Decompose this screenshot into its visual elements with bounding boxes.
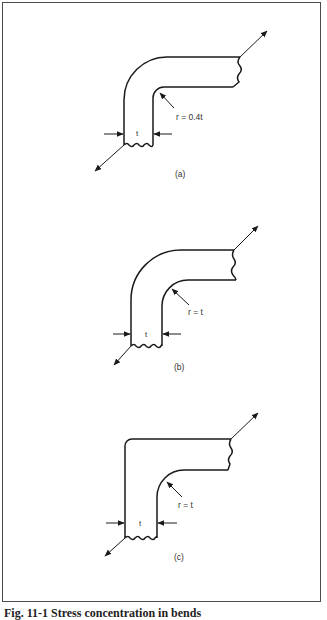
load-arrow-top-b [234,226,258,250]
radius-leader-c [167,482,182,497]
radius-label-a: r = 0.4t [176,112,203,122]
thickness-label-c: t [139,519,142,528]
load-arrow-top-c [231,413,258,439]
thickness-label-b: t [145,330,148,339]
thickness-label-a: t [136,129,139,138]
load-arrow-bottom-b [114,346,131,365]
radius-label-b: r = t [188,307,204,317]
radius-leader-a [160,93,174,108]
figure-caption: Fig. 11-1 Stress concentration in bends [4,607,201,619]
panel-b [113,226,258,365]
panel-label-c: (c) [174,552,184,562]
panel-c [105,413,258,556]
panel-label-a: (a) [175,169,186,179]
panel-label-b: (b) [174,362,185,372]
load-arrow-bottom-c [105,538,125,556]
load-arrow-bottom-a [95,145,124,171]
radius-label-c: r = t [178,500,194,510]
radius-leader-b [172,289,189,305]
load-arrow-top-a [240,31,267,57]
bend-outline-a [124,57,241,147]
panel-a [95,31,267,171]
